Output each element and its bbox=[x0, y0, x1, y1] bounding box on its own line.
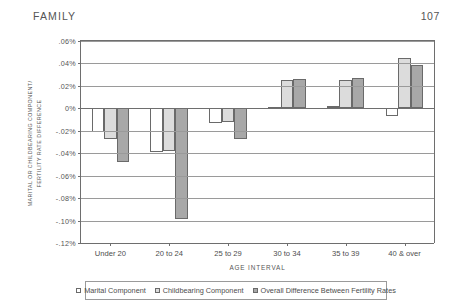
bar bbox=[281, 80, 294, 108]
x-axis-tick-label: 30 to 34 bbox=[273, 249, 300, 258]
y-axis-tick-label: .06% bbox=[58, 37, 81, 46]
bar bbox=[339, 80, 352, 108]
gridline bbox=[81, 221, 434, 222]
y-axis-tick-label: .04% bbox=[58, 59, 81, 68]
bar-group bbox=[81, 41, 140, 243]
gridline bbox=[81, 86, 434, 87]
bar-series-container bbox=[81, 41, 434, 243]
bar bbox=[386, 108, 399, 116]
bar bbox=[234, 108, 247, 138]
legend-swatch-marital-icon bbox=[76, 288, 81, 293]
gridline bbox=[81, 176, 434, 177]
gridline bbox=[81, 41, 434, 42]
y-axis-tick-label: -.08% bbox=[56, 194, 81, 203]
bar bbox=[163, 108, 176, 151]
legend-swatch-childbearing-icon bbox=[155, 288, 160, 293]
bar bbox=[398, 58, 411, 109]
gridline bbox=[81, 153, 434, 154]
bar-group bbox=[375, 41, 434, 243]
x-axis-tick-label: 40 & over bbox=[388, 249, 421, 258]
bar-chart-figure: MARITAL OR CHILDBEARING COMPONENT/ FERTI… bbox=[0, 0, 464, 305]
legend-label: Marital Component bbox=[84, 286, 146, 295]
plot-area: .06%.04%.02%0%-.02%-.04%-.06%-.08%-.10%-… bbox=[80, 40, 435, 243]
x-axis-tick-label: 35 to 39 bbox=[332, 249, 359, 258]
page-root: FAMILY 107 MARITAL OR CHILDBEARING COMPO… bbox=[0, 0, 464, 305]
x-axis-tick-label: 20 to 24 bbox=[156, 249, 183, 258]
gridline bbox=[81, 63, 434, 64]
bar bbox=[209, 108, 222, 123]
x-axis-tick bbox=[346, 243, 347, 246]
x-axis-title: AGE INTERVAL bbox=[80, 264, 435, 271]
y-axis-tick-label: -.04% bbox=[56, 149, 81, 158]
y-axis-title: MARITAL OR CHILDBEARING COMPONENT/ FERTI… bbox=[26, 36, 43, 251]
bar bbox=[352, 78, 365, 108]
bar bbox=[222, 108, 235, 121]
x-axis-tick bbox=[228, 243, 229, 246]
gridline bbox=[81, 108, 434, 109]
bar bbox=[175, 108, 188, 219]
gridline bbox=[81, 243, 434, 244]
y-axis-tick-label: -.06% bbox=[56, 171, 81, 180]
y-axis-title-line-2: FERTILITY RATE DIFFERENCE bbox=[35, 36, 44, 251]
chart-legend: Marital Component Childbearing Component… bbox=[85, 281, 387, 300]
legend-swatch-overall-icon bbox=[253, 288, 258, 293]
x-axis-tick-label: Under 20 bbox=[95, 249, 126, 258]
y-axis-tick-label: 0% bbox=[65, 104, 81, 113]
y-axis-tick-label: -.12% bbox=[56, 239, 81, 248]
bar-group bbox=[316, 41, 375, 243]
x-axis-tick bbox=[110, 243, 111, 246]
legend-label: Overall Difference Between Fertility Rat… bbox=[261, 286, 396, 295]
bar bbox=[92, 108, 105, 132]
bar bbox=[293, 79, 306, 108]
bar-group bbox=[199, 41, 258, 243]
legend-item: Marital Component bbox=[76, 286, 146, 295]
x-axis-tick bbox=[405, 243, 406, 246]
x-axis-tick-label: 25 to 29 bbox=[214, 249, 241, 258]
y-axis-tick-label: -.10% bbox=[56, 216, 81, 225]
y-axis-tick-label: .02% bbox=[58, 81, 81, 90]
gridline bbox=[81, 131, 434, 132]
bar-group bbox=[258, 41, 317, 243]
legend-item: Childbearing Component bbox=[155, 286, 244, 295]
legend-label: Childbearing Component bbox=[163, 286, 244, 295]
bar bbox=[104, 108, 117, 138]
gridline bbox=[81, 198, 434, 199]
legend-item: Overall Difference Between Fertility Rat… bbox=[253, 286, 396, 295]
bar-group bbox=[140, 41, 199, 243]
x-axis-tick bbox=[287, 243, 288, 246]
y-axis-title-line-1: MARITAL OR CHILDBEARING COMPONENT/ bbox=[27, 80, 33, 206]
y-axis-tick-label: -.02% bbox=[56, 126, 81, 135]
x-axis-tick bbox=[169, 243, 170, 246]
